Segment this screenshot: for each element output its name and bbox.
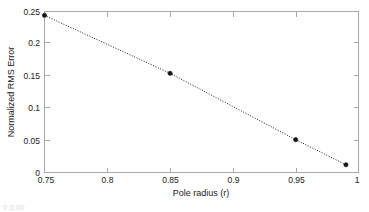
page-bottom-artifact: 0.0.00	[3, 204, 25, 211]
rms-error-vs-pole-radius-chart: 0 0.05 0.1 0.15 0.2 0.25 0.75 0.8 0.85 0…	[0, 0, 369, 212]
x-axis-title: Pole radius (r)	[173, 188, 230, 198]
data-point	[344, 163, 348, 167]
y-axis-tick-labels: 0 0.05 0.1 0.15 0.2 0.25	[23, 7, 40, 178]
x-tick-label: 1	[355, 175, 360, 185]
plot-area-background	[44, 11, 359, 173]
y-tick-label: 0.2	[28, 38, 40, 48]
y-tick-label: 0.1	[28, 103, 40, 113]
data-point	[168, 71, 172, 75]
data-point	[294, 138, 298, 142]
x-axis-tick-labels: 0.75 0.8 0.85 0.9 0.95 1	[38, 175, 360, 185]
x-tick-label: 0.85	[162, 175, 179, 185]
x-tick-label: 0.9	[228, 175, 240, 185]
y-tick-label: 0.05	[23, 136, 40, 146]
y-axis-title: Normalized RMS Error	[6, 47, 16, 138]
y-tick-label: 0.15	[23, 71, 40, 81]
data-point	[42, 13, 46, 17]
x-tick-label: 0.75	[38, 175, 55, 185]
x-tick-label: 0.8	[102, 175, 114, 185]
x-tick-label: 0.95	[288, 175, 305, 185]
figure-canvas: 0 0.05 0.1 0.15 0.2 0.25 0.75 0.8 0.85 0…	[0, 0, 369, 212]
y-tick-label: 0.25	[23, 7, 40, 17]
